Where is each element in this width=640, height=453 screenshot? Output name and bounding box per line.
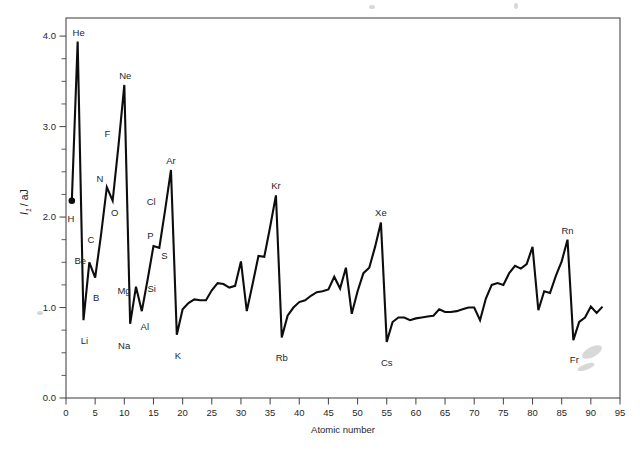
element-annotation-labels: HHeLiBeBCNOFNeNaMgAlSiPSClArKKrRbXeCsRnF… — [67, 27, 578, 368]
element-label-ne: Ne — [119, 70, 131, 81]
data-series-line — [72, 42, 603, 342]
x-tick-label: 40 — [294, 407, 305, 418]
x-axis-ticks — [66, 398, 620, 405]
x-tick-label: 10 — [119, 407, 130, 418]
element-label-o: O — [111, 207, 118, 218]
x-tick-label: 25 — [207, 407, 218, 418]
element-label-p: P — [147, 230, 153, 241]
y-tick-label: 0.0 — [43, 392, 56, 403]
x-tick-label: 15 — [148, 407, 159, 418]
element-label-n: N — [96, 173, 103, 184]
element-label-si: Si — [147, 283, 155, 294]
element-label-rn: Rn — [561, 225, 573, 236]
element-label-k: K — [175, 350, 182, 361]
ionization-energy-chart: 0.01.02.03.04.0 051015202530354045505560… — [0, 0, 640, 453]
x-tick-label: 45 — [323, 407, 334, 418]
element-label-b: B — [93, 292, 99, 303]
svg-text:I1/ aJ: I1/ aJ — [18, 189, 32, 215]
y-tick-label: 3.0 — [43, 121, 56, 132]
marker-h — [69, 197, 76, 204]
x-tick-label: 75 — [498, 407, 509, 418]
element-label-mg: Mg — [117, 285, 130, 296]
x-tick-label: 55 — [381, 407, 392, 418]
element-label-s: S — [161, 250, 167, 261]
x-tick-label: 60 — [411, 407, 422, 418]
x-tick-label: 70 — [469, 407, 480, 418]
y-tick-label: 1.0 — [43, 302, 56, 313]
plot-frame — [66, 18, 620, 398]
element-label-f: F — [105, 128, 111, 139]
element-label-rb: Rb — [276, 352, 288, 363]
y-tick-label: 2.0 — [43, 211, 56, 222]
x-axis-tick-labels: 05101520253035404550556065707580859095 — [63, 407, 625, 418]
y-tick-label: 4.0 — [43, 30, 56, 41]
x-tick-label: 5 — [93, 407, 98, 418]
y-axis-ticks — [60, 36, 67, 398]
x-tick-label: 30 — [236, 407, 247, 418]
element-label-na: Na — [118, 340, 131, 351]
x-tick-label: 65 — [440, 407, 451, 418]
data-point-markers — [69, 197, 76, 204]
x-tick-label: 0 — [63, 407, 68, 418]
chart-canvas: 0.01.02.03.04.0 051015202530354045505560… — [0, 0, 640, 453]
x-tick-label: 90 — [586, 407, 597, 418]
scan-artifacts — [37, 3, 604, 373]
x-tick-label: 80 — [527, 407, 538, 418]
element-label-he: He — [73, 27, 85, 38]
x-tick-label: 50 — [352, 407, 363, 418]
element-label-cl: Cl — [147, 196, 156, 207]
x-tick-label: 85 — [556, 407, 567, 418]
element-label-fr: Fr — [570, 354, 579, 365]
x-tick-label: 95 — [615, 407, 626, 418]
x-tick-label: 35 — [265, 407, 276, 418]
element-label-ar: Ar — [166, 155, 176, 166]
y-axis-title-subscript: 1 — [25, 208, 32, 212]
x-axis-title: Atomic number — [311, 424, 375, 435]
element-label-al: Al — [141, 321, 149, 332]
element-label-li: Li — [81, 335, 88, 346]
x-tick-label: 20 — [177, 407, 188, 418]
element-label-h: H — [67, 213, 74, 224]
element-label-kr: Kr — [271, 180, 281, 191]
element-label-be: Be — [75, 255, 87, 266]
y-axis-tick-labels: 0.01.02.03.04.0 — [43, 30, 56, 403]
element-label-c: C — [88, 234, 95, 245]
element-label-xe: Xe — [375, 207, 387, 218]
element-label-cs: Cs — [381, 357, 393, 368]
y-axis-title-unit: / aJ — [18, 189, 30, 206]
y-axis-title: I1/ aJ — [18, 189, 32, 215]
